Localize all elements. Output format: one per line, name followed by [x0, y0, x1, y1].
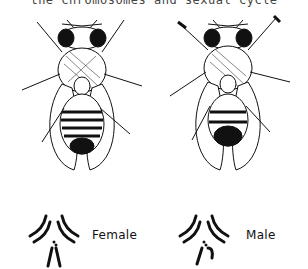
figure-caption-cropped: the chromosomes and sexual cycle [0, 0, 308, 7]
male-fly-illustration [158, 12, 298, 192]
female-fly-illustration [12, 12, 152, 192]
female-chromosome-diagram [22, 212, 86, 268]
female-label: Female [92, 228, 137, 242]
male-chromosome-diagram [172, 212, 236, 268]
male-label: Male [246, 228, 276, 242]
